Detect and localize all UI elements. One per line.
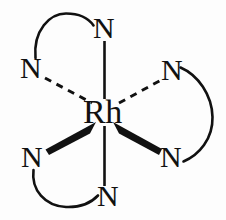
arc-bottom-left-chelate-bridge <box>33 170 98 207</box>
atom-label-n-lower-right: N <box>160 142 182 172</box>
atom-label-n-bottom: N <box>97 181 119 211</box>
atom-label-n-upper-left: N <box>20 53 42 83</box>
atom-label-rh-center: Rh <box>83 95 122 129</box>
arc-right-chelate-bridge <box>181 68 213 162</box>
arc-top-left-chelate-bridge <box>35 14 93 59</box>
bond-dash-rh-to-n-upper-right <box>119 79 163 103</box>
chelate-arcs-group <box>33 14 212 208</box>
atom-label-n-top: N <box>93 13 115 43</box>
atom-label-n-lower-left: N <box>21 142 43 172</box>
chemical-structure-diagram: N N N Rh N N N <box>0 0 226 220</box>
atom-label-n-upper-right: N <box>161 55 183 85</box>
